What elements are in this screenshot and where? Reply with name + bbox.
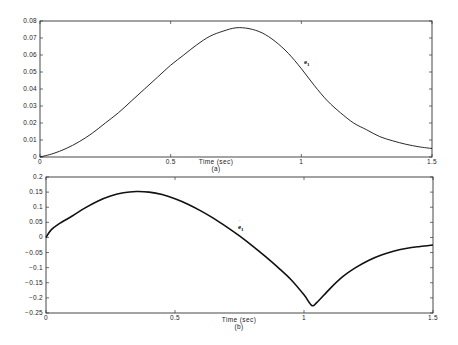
y-tick-label: 0.05 xyxy=(23,68,37,75)
y-tick-label: 0.05 xyxy=(29,218,43,225)
chart-panel-a: 00.010.020.030.040.050.060.070.08 00.511… xyxy=(23,17,437,173)
y-tick-label: 0.01 xyxy=(23,136,37,143)
y-tick-label: −0.15 xyxy=(25,279,43,286)
y-tick-label: 0.15 xyxy=(29,188,43,195)
x-tick-label: 0.5 xyxy=(170,314,180,321)
y-axis-b: −0.25−0.2−0.15−0.1−0.0500.050.10.150.2 xyxy=(25,173,433,316)
x-tick-label: 1.5 xyxy=(428,314,438,321)
y-tick-label: 0.08 xyxy=(23,17,37,24)
y-tick-label: 0.1 xyxy=(33,203,43,210)
y-tick-label: 0.03 xyxy=(23,102,37,109)
panel-caption-b: (b) xyxy=(234,323,243,331)
y-tick-label: −0.25 xyxy=(25,309,43,316)
series-line-e1 xyxy=(40,28,432,157)
x-tick-label: 1 xyxy=(299,158,303,165)
chart-panel-b: −0.25−0.2−0.15−0.1−0.0500.050.10.150.2 0… xyxy=(25,173,438,331)
annotation-e1-dot: e1 xyxy=(238,223,244,232)
x-tick-label: 0 xyxy=(38,158,42,165)
y-tick-label: 0.2 xyxy=(33,173,43,180)
y-tick-label: 0.02 xyxy=(23,119,37,126)
y-tick-label: 0.07 xyxy=(23,34,37,41)
y-tick-label: −0.1 xyxy=(29,264,43,271)
x-tick-label: 1 xyxy=(302,314,306,321)
x-axis-a: 00.511.5 xyxy=(38,21,437,165)
y-tick-label: −0.2 xyxy=(29,294,43,301)
series-line-e1-dot xyxy=(46,191,433,305)
annotation-e1: e1 xyxy=(304,58,310,67)
plot-frame-a xyxy=(40,21,432,157)
y-tick-label: 0 xyxy=(33,153,37,160)
plot-frame-b xyxy=(46,177,433,313)
panel-caption-a: (a) xyxy=(211,165,220,173)
y-tick-label: −0.05 xyxy=(25,249,43,256)
y-tick-label: 0.04 xyxy=(23,85,37,92)
y-tick-label: 0 xyxy=(39,233,43,240)
figure: 00.010.020.030.040.050.060.070.08 00.511… xyxy=(0,0,458,345)
x-tick-label: 0 xyxy=(44,314,48,321)
x-tick-label: 0.5 xyxy=(166,158,176,165)
y-tick-label: 0.06 xyxy=(23,51,37,58)
x-tick-label: 1.5 xyxy=(427,158,437,165)
